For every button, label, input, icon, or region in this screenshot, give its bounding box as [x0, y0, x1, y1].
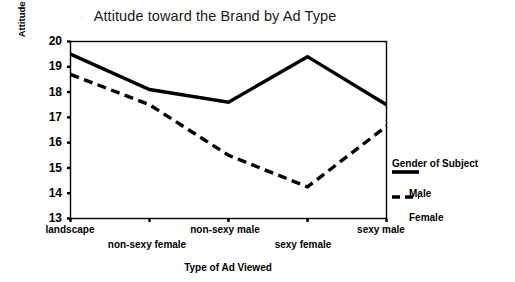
data-series-group: [71, 54, 387, 187]
plot-canvas: [0, 0, 515, 282]
series-line-female: [71, 74, 387, 187]
series-line-male: [71, 54, 387, 105]
legend-swatches: [392, 172, 419, 197]
plot-frame: [71, 42, 387, 219]
chart-figure: Attitude toward the Brand by Ad Type Att…: [0, 0, 515, 282]
axes-group: [71, 42, 387, 219]
